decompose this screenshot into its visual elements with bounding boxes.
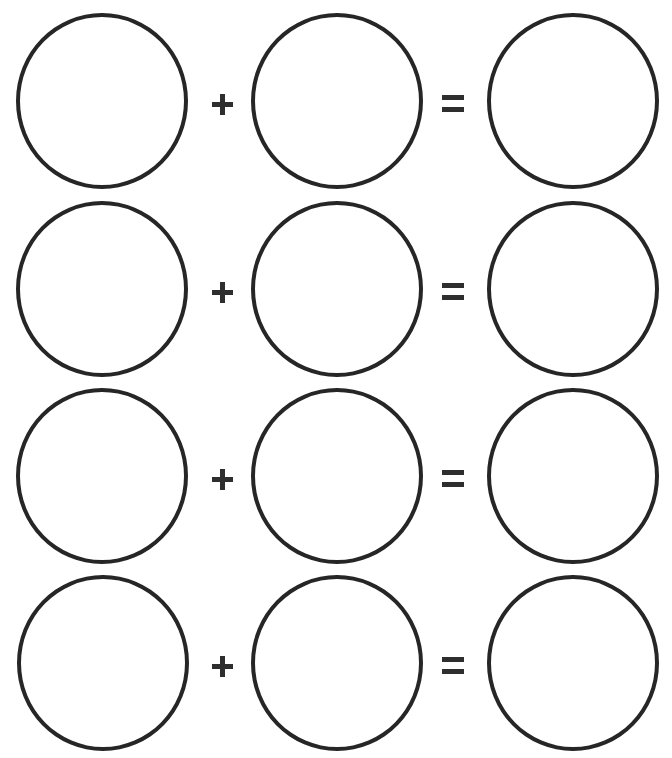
sum-circle[interactable] xyxy=(487,201,659,377)
addend-2-circle[interactable] xyxy=(251,201,423,377)
sum-circle[interactable] xyxy=(487,575,659,751)
addend-1-circle[interactable] xyxy=(16,13,188,189)
addend-1-circle[interactable] xyxy=(16,201,188,377)
addend-1-circle[interactable] xyxy=(17,575,189,751)
equation-row-1 xyxy=(0,13,672,201)
addition-worksheet xyxy=(0,0,672,758)
addend-2-circle[interactable] xyxy=(251,13,423,189)
plus-icon xyxy=(212,94,233,115)
equals-icon xyxy=(442,470,464,488)
addend-2-circle[interactable] xyxy=(251,388,423,564)
plus-icon xyxy=(212,282,233,303)
sum-circle[interactable] xyxy=(487,388,659,564)
equals-icon xyxy=(442,283,464,301)
equals-icon xyxy=(442,95,464,113)
equation-row-4 xyxy=(0,575,672,758)
addend-2-circle[interactable] xyxy=(251,575,423,751)
equation-row-2 xyxy=(0,201,672,389)
plus-icon xyxy=(212,656,233,677)
addend-1-circle[interactable] xyxy=(16,388,188,564)
plus-icon xyxy=(212,469,233,490)
sum-circle[interactable] xyxy=(487,13,659,189)
equation-row-3 xyxy=(0,388,672,576)
equals-icon xyxy=(442,657,464,675)
